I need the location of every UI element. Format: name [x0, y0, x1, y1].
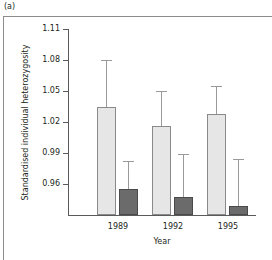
chart-plot-area: 1.11 1.08 1.05 1.02 0.99 0.96 1989 1992 … — [0, 0, 272, 260]
errorbar-cap — [233, 159, 244, 160]
y-tick-mark — [63, 91, 68, 92]
errorbar-stem — [161, 91, 162, 131]
y-tick-mark — [63, 153, 68, 154]
bar-dark-1989 — [119, 189, 138, 215]
errorbar-stem — [106, 60, 107, 108]
errorbar-stem — [128, 161, 129, 190]
bar-light-1995 — [207, 114, 226, 215]
errorbar-cap — [123, 161, 134, 162]
y-tick-mark — [63, 29, 68, 30]
x-axis-title: Year — [68, 237, 256, 246]
errorbar-cap — [178, 154, 189, 155]
y-tick-mark — [63, 60, 68, 61]
errorbar-stem — [238, 159, 239, 207]
bar-dark-1995 — [229, 206, 248, 215]
y-tick-mark — [63, 122, 68, 123]
errorbar-cap — [156, 91, 167, 92]
x-tick-label-1992: 1992 — [153, 222, 193, 231]
y-tick-mark — [63, 184, 68, 185]
x-axis-line — [68, 215, 256, 216]
y-axis-title: Standardised individual heterozygosity — [21, 28, 30, 218]
bar-light-1992 — [152, 126, 171, 215]
bar-light-1989 — [97, 107, 116, 215]
errorbar-cap — [101, 60, 112, 61]
errorbar-cap — [211, 86, 222, 87]
x-tick-label-1995: 1995 — [208, 222, 248, 231]
y-axis-line — [68, 29, 69, 216]
x-tick-label-1989: 1989 — [98, 222, 138, 231]
bar-dark-1992 — [174, 197, 193, 215]
errorbar-stem — [183, 154, 184, 198]
